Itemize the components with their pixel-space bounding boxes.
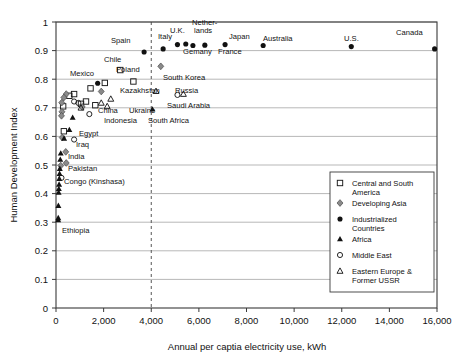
scatter-chart-figure: 02,0004,0006,0008,00010,00012,00014,0001…	[0, 0, 455, 363]
data-point-south-korea	[158, 63, 164, 70]
y-axis-title: Human Development Index	[8, 107, 19, 222]
y-tick-label-0.7: 0.7	[35, 102, 48, 113]
data-point-3-4	[58, 150, 64, 155]
label-poland: Poland	[116, 65, 140, 74]
y-tick-label-0.3: 0.3	[35, 217, 48, 228]
x-axis-title: Annual per captia electricity use, kWh	[168, 341, 326, 352]
chart-svg: 02,0004,0006,0008,00010,00012,00014,0001…	[0, 0, 455, 363]
x-tick-label-8000: 8,000	[235, 315, 259, 326]
legend-label: Industrialized	[352, 215, 397, 224]
label-uk: U.K.	[170, 26, 185, 35]
y-tick-label-0.9: 0.9	[35, 45, 48, 56]
data-point-indonesia	[87, 112, 92, 117]
x-tick-label-0: 0	[53, 315, 58, 326]
data-point-1-1	[98, 88, 104, 95]
data-point-3-9	[56, 181, 62, 186]
x-tick-label-10000: 10,000	[280, 315, 309, 326]
data-point-5-3	[98, 100, 104, 105]
label-iraq: Iraq	[76, 140, 89, 149]
label-gemany: Gemany	[183, 47, 212, 56]
label-indonesia: Indonesia	[104, 116, 138, 125]
data-point-u-k	[175, 42, 180, 47]
y-tick-label-0.6: 0.6	[35, 131, 48, 142]
legend-label: Africa	[352, 235, 372, 244]
label-ethiopia: Ethiopia	[62, 226, 90, 235]
legend-label-line2: Countries	[352, 224, 385, 233]
label-netherlands-2: lands	[194, 26, 212, 35]
legend-label: Central and South	[352, 179, 413, 188]
data-point-australia	[261, 43, 266, 48]
x-tick-labels: 02,0004,0006,0008,00010,00012,00014,0001…	[53, 315, 451, 326]
data-point-u-s	[349, 44, 354, 49]
x-tick-label-12000: 12,000	[327, 315, 356, 326]
data-point-italy	[161, 46, 166, 51]
label-egypt: Egypt	[79, 129, 99, 138]
label-congo: Congo (Kinshasa)	[64, 177, 125, 186]
legend-label: Developing Asia	[352, 199, 407, 208]
x-tick-label-4000: 4,000	[139, 315, 163, 326]
label-saudi-arabia: Saudi Arabia	[167, 101, 211, 110]
y-tick-label-0.2: 0.2	[35, 245, 48, 256]
x-tick-label-6000: 6,000	[187, 315, 211, 326]
y-tick-label-0: 0	[43, 303, 48, 314]
label-kazakhstan: Kazakhstan	[120, 86, 160, 95]
y-tick-labels: 00.10.20.30.40.50.60.70.80.91	[35, 17, 48, 314]
label-india: India	[68, 152, 85, 161]
data-point-0-1	[131, 79, 136, 84]
label-pakistan: Pakistan	[68, 164, 97, 173]
label-chile: Chile	[104, 55, 121, 64]
data-point-poland	[102, 80, 107, 85]
label-mexico: Mexico	[70, 69, 94, 78]
legend-marker-filled-circle-icon	[337, 216, 342, 221]
data-point-3-1	[70, 114, 76, 119]
legend-label: Eastern Europe &	[352, 267, 412, 276]
label-us: U.S.	[344, 34, 359, 43]
data-point-canada	[432, 46, 437, 51]
label-spain: Spain	[111, 36, 130, 45]
label-italy: Italy	[158, 32, 172, 41]
label-ukraine: Ukraine	[129, 106, 155, 115]
x-tick-label-2000: 2,000	[92, 315, 116, 326]
legend-label: Middle East	[352, 251, 393, 260]
label-japan: Japan	[229, 32, 250, 41]
y-tick-label-0.8: 0.8	[35, 74, 48, 85]
y-tick-label-0.1: 0.1	[35, 274, 48, 285]
label-australia: Australia	[263, 34, 293, 43]
data-point-egypt	[66, 127, 72, 132]
data-point-0-2	[88, 86, 93, 91]
x-tick-label-16000: 16,000	[422, 315, 451, 326]
data-point-0-9	[61, 129, 66, 134]
label-south-korea: South Korea	[163, 73, 206, 82]
legend-label-line2: America	[352, 188, 381, 197]
x-tick-label-14000: 14,000	[375, 315, 404, 326]
y-tick-label-0.4: 0.4	[35, 188, 48, 199]
data-point-spain	[142, 49, 147, 54]
data-point-nether-lands	[183, 41, 188, 46]
label-russia: Russia	[175, 86, 199, 95]
label-china: China	[98, 106, 119, 115]
y-tick-label-0.5: 0.5	[35, 160, 48, 171]
legend-label-line2: Former USSR	[352, 276, 400, 285]
label-south-africa: South Africa	[148, 116, 190, 125]
label-france: France	[218, 47, 242, 56]
data-point-3-5	[57, 156, 63, 161]
data-point-mexico	[95, 81, 100, 86]
label-canada: Canada	[396, 28, 423, 37]
data-point-5-2	[108, 96, 114, 101]
chart-legend: Central and SouthAmericaDeveloping AsiaI…	[330, 172, 434, 292]
y-tick-label-1: 1	[43, 17, 48, 28]
